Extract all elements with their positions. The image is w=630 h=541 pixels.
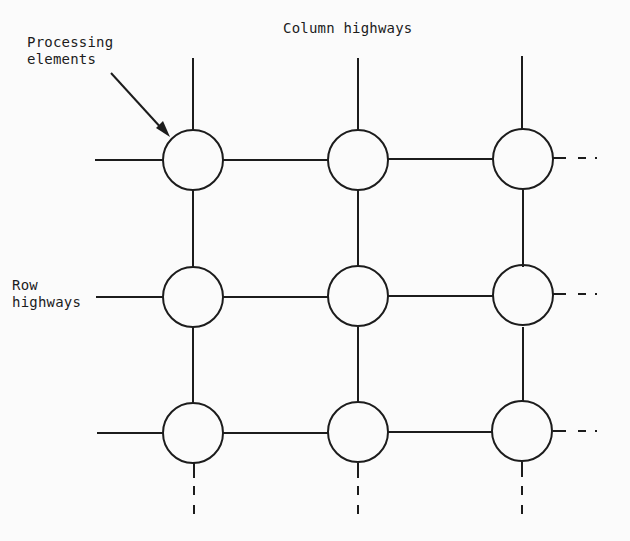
processing-element [492, 401, 552, 461]
processor-grid-diagram [0, 0, 630, 541]
pointer-arrow-shaft [111, 73, 163, 130]
processing-elements-label: Processing elements [27, 34, 113, 68]
processing-elements-label-line2: elements [27, 51, 113, 68]
processing-element [493, 265, 553, 325]
processing-element [328, 402, 388, 462]
row-highways-label-line1: Row [12, 277, 81, 294]
processing-element [328, 130, 388, 190]
column-highways-label: Column highways [283, 20, 412, 37]
processing-element [163, 403, 223, 463]
processing-element [328, 266, 388, 326]
processing-element [493, 129, 553, 189]
processing-elements-label-line1: Processing [27, 34, 113, 51]
row-highways-label: Row highways [12, 277, 81, 311]
processing-element [163, 267, 223, 327]
processing-element [163, 130, 223, 190]
row-highways-label-line2: highways [12, 294, 81, 311]
